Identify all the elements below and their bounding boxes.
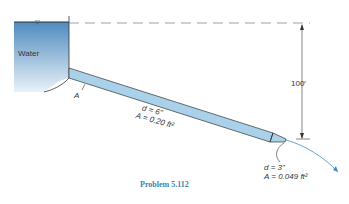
pipe: [69, 68, 273, 142]
free-surface-symbol: ▽: [35, 19, 40, 25]
nozzle-area-label: A = 0.049 ft²: [263, 172, 308, 181]
elevation-arrow-bottom: [300, 133, 304, 139]
entrance-label: A: [73, 91, 79, 100]
diagram-canvas: ▽ Water A d = 6" A = 0.20 ft² 100′ d = 3…: [0, 0, 349, 204]
elevation-arrow-top: [300, 24, 304, 30]
nozzle-leader: [277, 143, 284, 162]
nozzle-diameter-label: d = 3": [264, 163, 286, 172]
figure-caption: Problem 5.112: [140, 180, 189, 189]
elevation-label: 100′: [291, 79, 306, 88]
jet-arrowhead: [333, 166, 338, 172]
water-jet: [286, 140, 338, 172]
entrance-leader: [82, 84, 85, 90]
reservoir-label: Water: [18, 49, 39, 58]
